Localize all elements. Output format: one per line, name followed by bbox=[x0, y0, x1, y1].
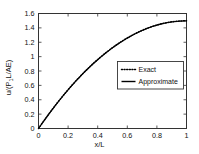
chart-figure: 00.20.40.60.81 00.20.40.60.811.21.41.6 E… bbox=[0, 0, 199, 154]
y-tick-label: 0.2 bbox=[25, 110, 35, 119]
x-tick-label: 0.2 bbox=[63, 131, 73, 140]
legend-label-approximate: Approximate bbox=[139, 78, 178, 86]
x-tick-label: 0.4 bbox=[93, 131, 103, 140]
y-tick-label: 1.4 bbox=[25, 23, 35, 32]
x-tick-label: 1 bbox=[185, 131, 189, 140]
x-tick-labels: 00.20.40.60.81 bbox=[37, 131, 189, 140]
legend-label-exact: Exact bbox=[139, 66, 157, 73]
y-tick-label: 0.4 bbox=[25, 95, 35, 104]
y-tick-label: 1.6 bbox=[25, 9, 35, 18]
y-tick-label: 0.8 bbox=[25, 67, 35, 76]
y-tick-label: 1 bbox=[31, 52, 35, 61]
x-tick-label: 0.6 bbox=[122, 131, 132, 140]
y-tick-label: 0 bbox=[31, 124, 35, 133]
chart-legend[interactable]: ExactApproximate bbox=[118, 62, 184, 90]
chart-svg: 00.20.40.60.81 00.20.40.60.811.21.41.6 E… bbox=[0, 0, 199, 154]
x-tick-label: 0 bbox=[37, 131, 41, 140]
y-tick-labels: 00.20.40.60.811.21.41.6 bbox=[25, 9, 35, 133]
y-tick-label: 0.6 bbox=[25, 81, 35, 90]
y-tick-label: 1.2 bbox=[25, 38, 35, 47]
x-axis-label: x/L bbox=[0, 140, 199, 149]
x-tick-label: 0.8 bbox=[152, 131, 162, 140]
